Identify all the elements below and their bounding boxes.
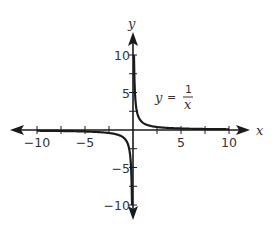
axes (10, 32, 250, 220)
x-tick-label: 10 (221, 135, 237, 150)
y-tick-label: −5 (112, 161, 130, 176)
curve-branch-positive (134, 55, 229, 129)
x-tick-label: 5 (177, 135, 185, 150)
x-axis-label: x (256, 123, 264, 138)
x-tick-label: −5 (76, 135, 94, 150)
x-tick-label: −10 (24, 135, 50, 150)
y-tick-label: 5 (122, 86, 130, 101)
equation-annotation: y = 1 x (154, 83, 193, 112)
y-tick-label: −10 (104, 198, 130, 213)
equation-numerator: 1 (185, 83, 192, 96)
y-axis-label: y (127, 16, 136, 31)
equation-denominator: x (184, 97, 192, 112)
equation-equals: = (167, 91, 176, 104)
reciprocal-function-graph: −10−5510105−5−10 x y y = 1 x (0, 0, 274, 245)
equation-lhs: y (154, 90, 163, 105)
y-tick-label: 10 (114, 48, 130, 63)
